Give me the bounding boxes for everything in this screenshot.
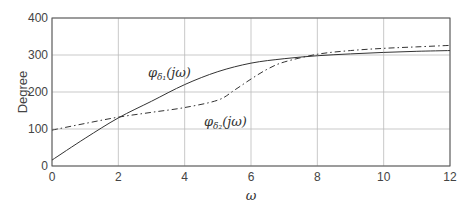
- y-tick-label: 100: [28, 122, 48, 136]
- x-axis-ticks: 024681012: [49, 170, 457, 184]
- y-axis-ticks: 0100200300400: [28, 11, 48, 173]
- x-tick-label: 4: [181, 170, 188, 184]
- y-tick-label: 0: [41, 159, 48, 173]
- x-tick-label: 2: [115, 170, 122, 184]
- y-axis-label: Degree: [15, 71, 30, 114]
- annotation-phi-delta1: φδ₁(jω): [148, 65, 191, 82]
- x-tick-label: 6: [248, 170, 255, 184]
- x-axis-label: ω: [246, 188, 257, 203]
- x-tick-label: 8: [314, 170, 321, 184]
- y-tick-label: 300: [28, 48, 48, 62]
- x-tick-label: 0: [49, 170, 56, 184]
- x-tick-label: 10: [377, 170, 391, 184]
- y-tick-label: 400: [28, 11, 48, 25]
- grid-lines: [52, 18, 450, 166]
- y-tick-label: 200: [28, 85, 48, 99]
- annotation-phi-delta2: φδ₂(jω): [204, 114, 247, 131]
- phase-chart: 024681012 0100200300400 Degree ω φδ₁(jω)…: [0, 0, 472, 211]
- x-tick-label: 12: [443, 170, 457, 184]
